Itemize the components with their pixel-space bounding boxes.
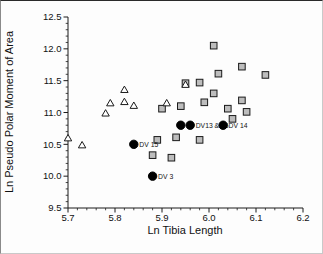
data-point-square — [225, 105, 232, 112]
data-point-square — [196, 137, 203, 144]
y-tick-label: 11.5 — [44, 75, 62, 86]
data-point-square — [210, 42, 217, 49]
x-tick-label: 5.7 — [61, 212, 74, 223]
data-point-square — [196, 79, 203, 86]
data-point-circle — [186, 121, 194, 129]
data-point-triangle — [102, 110, 109, 116]
x-axis-title: Ln Tibia Length — [147, 224, 222, 236]
data-point-triangle — [121, 98, 128, 104]
data-point-square — [239, 63, 246, 70]
data-point-square — [215, 70, 222, 77]
scatter-plot-figure: 5.75.85.96.06.16.29.510.010.511.011.512.… — [0, 0, 323, 254]
data-point-square — [243, 109, 250, 116]
y-tick-label: 12.5 — [43, 11, 62, 22]
data-point-circle — [219, 121, 227, 129]
data-point-square — [262, 72, 269, 79]
data-point-label: DV 14 — [229, 122, 248, 129]
data-point-triangle — [64, 134, 71, 140]
data-point-square — [159, 105, 166, 112]
data-point-square — [173, 134, 180, 141]
y-tick-label: 12.0 — [43, 43, 62, 54]
data-point-triangle — [121, 86, 128, 92]
y-tick-label: 11.0 — [44, 107, 62, 118]
y-tick-label: 10.5 — [43, 139, 62, 150]
data-point-square — [178, 103, 185, 110]
data-point-triangle — [78, 141, 85, 147]
data-point-square — [149, 152, 156, 159]
data-point-square — [239, 97, 246, 104]
data-point-square — [201, 99, 208, 106]
data-point-label: DV 3 — [158, 173, 173, 180]
x-tick-label: 6.0 — [202, 212, 215, 223]
data-point-circle — [177, 121, 185, 129]
data-point-circle — [130, 140, 138, 148]
data-point-square — [210, 90, 217, 97]
data-point-triangle — [130, 102, 137, 108]
y-tick-label: 10.0 — [43, 170, 62, 181]
data-point-triangle — [163, 99, 170, 105]
data-point-square — [168, 154, 175, 161]
data-point-triangle — [107, 99, 114, 105]
plot-canvas: 5.75.85.96.06.16.29.510.010.511.011.512.… — [1, 1, 323, 254]
plot-area: 5.75.85.96.06.16.29.510.010.511.011.512.… — [43, 11, 310, 223]
y-tick-label: 9.5 — [48, 202, 61, 213]
x-tick-label: 5.8 — [108, 212, 121, 223]
data-point-circle — [148, 172, 156, 180]
x-tick-label: 5.9 — [155, 212, 168, 223]
y-axis-title: Ln Pseudo Polar Moment of Area — [3, 30, 15, 193]
x-tick-label: 6.2 — [296, 212, 309, 223]
x-tick-label: 6.1 — [249, 212, 262, 223]
data-point-label: DV 15 — [139, 141, 158, 148]
